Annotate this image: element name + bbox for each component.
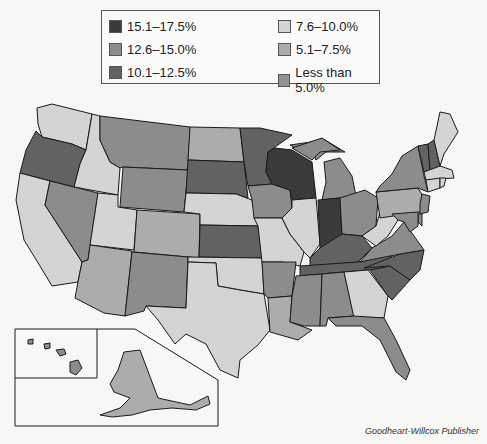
state-HI <box>70 360 82 375</box>
state-SD <box>186 160 248 198</box>
state-RI <box>440 178 446 188</box>
state-IA <box>248 184 292 218</box>
state-CT <box>426 178 440 192</box>
state-MI-lp <box>322 158 356 200</box>
state-AR <box>262 262 296 298</box>
state-AK <box>100 350 210 417</box>
us-map <box>0 0 487 444</box>
state-FL <box>328 316 410 380</box>
state-MS <box>290 274 322 326</box>
state-CO <box>134 210 200 258</box>
state-DE <box>418 214 422 226</box>
state-ND <box>188 127 244 162</box>
state-HI-kauai <box>28 339 33 344</box>
state-HI-oahu <box>44 343 50 349</box>
state-WY <box>120 167 188 212</box>
state-MT <box>100 116 190 170</box>
state-KS <box>199 225 262 258</box>
state-HI-maui <box>56 349 66 356</box>
publisher-credit: Goodheart-Willcox Publisher <box>365 426 479 436</box>
state-NJ <box>420 194 430 214</box>
